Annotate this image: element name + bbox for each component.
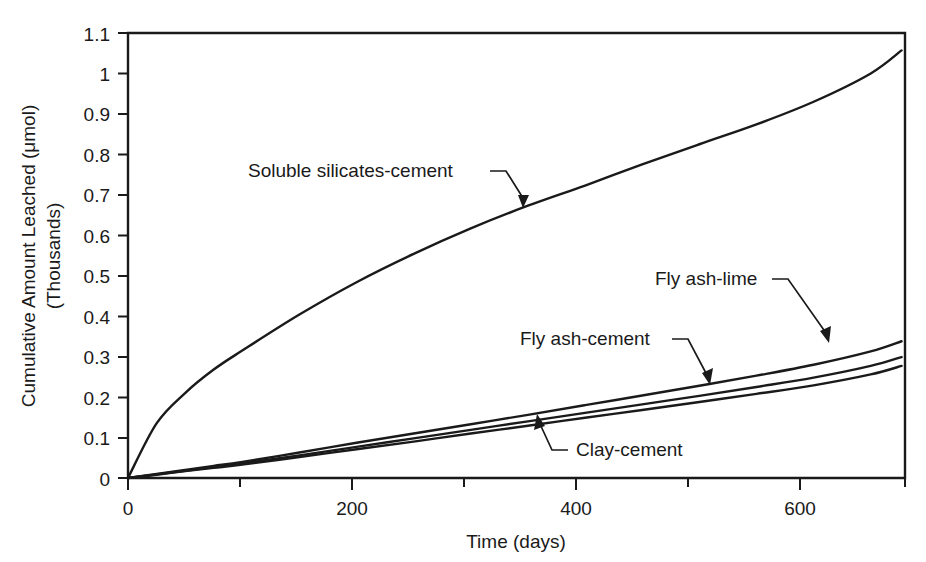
y-tick-label: 0.9	[84, 104, 110, 125]
series-label-soluble-silicates-cement: Soluble silicates-cement	[248, 160, 454, 181]
y-tick-label: 0.4	[84, 307, 111, 328]
x-tick-label: 600	[784, 498, 816, 519]
y-tick-label: 0.3	[84, 347, 110, 368]
y-tick-label: 0.1	[84, 428, 110, 449]
x-tick-label: 400	[560, 498, 592, 519]
y-axis-title: Cumulative Amount Leached (μmol)	[18, 105, 39, 407]
x-axis-title: Time (days)	[466, 531, 566, 552]
y-tick-label: 1	[99, 64, 110, 85]
series-label-clay-cement: Clay-cement	[576, 439, 683, 460]
x-tick-label: 0	[123, 498, 134, 519]
y-tick-label: 0.2	[84, 388, 110, 409]
y-tick-label: 1.1	[84, 24, 110, 45]
leaching-line-chart: 1.1 1 0.9 0.8 0.7 0.6 0.5 0.4 0.3 0.2 0.…	[0, 0, 926, 562]
y-tick-label: 0.5	[84, 266, 110, 287]
y-tick-label: 0.7	[84, 185, 110, 206]
y-axis-title-second-line: (Thousands)	[43, 203, 64, 310]
chart-figure: 1.1 1 0.9 0.8 0.7 0.6 0.5 0.4 0.3 0.2 0.…	[0, 0, 926, 562]
series-label-fly-ash-cement: Fly ash-cement	[520, 328, 651, 349]
y-tick-label: 0.6	[84, 226, 110, 247]
y-tick-label: 0.8	[84, 145, 110, 166]
y-tick-label: 0	[99, 469, 110, 490]
x-tick-label: 200	[336, 498, 368, 519]
series-label-fly-ash-lime: Fly ash-lime	[655, 268, 757, 289]
